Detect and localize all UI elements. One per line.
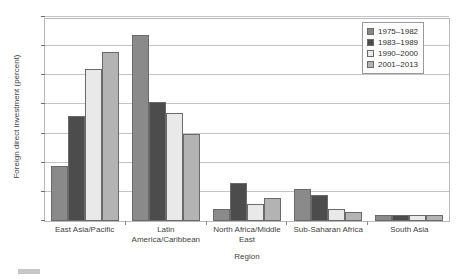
bar bbox=[149, 102, 166, 221]
x-axis-category-label: LatinAmerica/Caribbean bbox=[125, 225, 206, 245]
bar bbox=[85, 69, 102, 221]
legend-swatch-icon bbox=[367, 28, 374, 35]
bar-group bbox=[287, 19, 368, 221]
bar bbox=[294, 189, 311, 221]
legend-item-label: 1983–1989 bbox=[378, 38, 418, 47]
x-axis-category-line: America/Caribbean bbox=[125, 235, 206, 245]
bar-chart: Foreign direct investment (percent) 0102… bbox=[0, 0, 465, 280]
bar bbox=[375, 215, 392, 221]
bar bbox=[68, 116, 85, 221]
legend-item-label: 1975–1982 bbox=[378, 27, 418, 36]
legend-item: 1975–1982 bbox=[367, 26, 418, 37]
x-axis-category-line: South Asia bbox=[369, 225, 450, 235]
y-axis-tick-mark bbox=[41, 16, 45, 17]
x-axis-labels: East Asia/PacificLatinAmerica/CaribbeanN… bbox=[44, 225, 450, 245]
bar bbox=[311, 195, 328, 221]
bar bbox=[213, 209, 230, 221]
bar bbox=[409, 215, 426, 221]
footer-artifact bbox=[18, 269, 40, 274]
bar-group bbox=[207, 19, 288, 221]
y-axis-title: Foreign direct investment (percent) bbox=[12, 17, 21, 217]
bar-group bbox=[126, 19, 207, 221]
bar bbox=[166, 113, 183, 221]
x-axis-category-line: Latin bbox=[125, 225, 206, 235]
bar bbox=[264, 198, 281, 221]
x-axis-category-line: East bbox=[206, 235, 287, 245]
gridline bbox=[45, 16, 449, 17]
legend-item-label: 2001–2013 bbox=[378, 60, 418, 69]
legend-swatch-icon bbox=[367, 50, 374, 57]
bar bbox=[392, 215, 409, 221]
legend-item: 1990–2000 bbox=[367, 48, 418, 59]
legend-item: 1983–1989 bbox=[367, 37, 418, 48]
bar bbox=[247, 204, 264, 221]
bar bbox=[102, 52, 119, 221]
x-axis-category-line: Sub-Saharan Africa bbox=[288, 225, 369, 235]
bar bbox=[183, 134, 200, 221]
x-axis-category-label: South Asia bbox=[369, 225, 450, 245]
x-axis-category-label: East Asia/Pacific bbox=[44, 225, 125, 245]
legend-swatch-icon bbox=[367, 39, 374, 46]
x-axis-category-label: Sub-Saharan Africa bbox=[288, 225, 369, 245]
bar bbox=[230, 183, 247, 221]
bar bbox=[51, 166, 68, 221]
bar bbox=[426, 215, 443, 221]
x-axis-category-line: North Africa/Middle bbox=[206, 225, 287, 235]
legend-swatch-icon bbox=[367, 61, 374, 68]
bar-group bbox=[45, 19, 126, 221]
x-axis-category-label: North Africa/MiddleEast bbox=[206, 225, 287, 245]
bar bbox=[328, 209, 345, 221]
bar bbox=[345, 212, 362, 221]
legend-item: 2001–2013 bbox=[367, 59, 418, 70]
x-axis-category-line: East Asia/Pacific bbox=[44, 225, 125, 235]
legend-item-label: 1990–2000 bbox=[378, 49, 418, 58]
x-axis-title: Region bbox=[44, 252, 450, 261]
bar bbox=[132, 35, 149, 222]
legend: 1975–19821983–19891990–20002001–2013 bbox=[362, 22, 424, 74]
